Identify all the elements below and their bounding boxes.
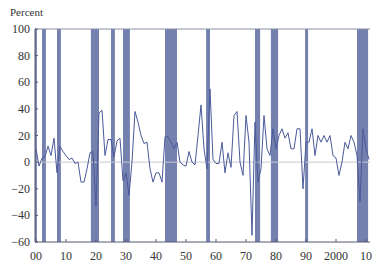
y-tick-label: 0 — [24, 155, 30, 169]
x-tick-label: 70 — [240, 249, 252, 263]
x-tick-label: 40 — [150, 249, 162, 263]
x-axis-ticks: 00102030405060708090200010 — [30, 239, 372, 263]
recession-bar — [165, 29, 177, 242]
y-tick-label: 20 — [18, 129, 30, 143]
recession-bar — [111, 29, 115, 242]
x-tick-label: 90 — [300, 249, 312, 263]
x-tick-label: 80 — [270, 249, 282, 263]
x-tick-label: 10 — [60, 249, 72, 263]
x-tick-label: 2000 — [324, 249, 348, 263]
y-axis-ticks: 100806040200−20−40−60 — [11, 22, 38, 249]
y-tick-label: −60 — [11, 235, 30, 249]
x-tick-label: 50 — [180, 249, 192, 263]
x-tick-label: 30 — [120, 249, 132, 263]
y-tick-label: 100 — [12, 22, 30, 36]
y-tick-label: −20 — [11, 182, 30, 196]
x-tick-label: 60 — [210, 249, 222, 263]
y-tick-label: −40 — [11, 208, 30, 222]
axes — [35, 29, 370, 242]
y-tick-label: 60 — [18, 75, 30, 89]
y-tick-label: 80 — [18, 49, 30, 63]
x-tick-label: 20 — [90, 249, 102, 263]
recession-bar — [42, 29, 46, 242]
x-tick-label: 00 — [30, 249, 42, 263]
recession-bar — [305, 29, 308, 242]
line-chart: 100806040200−20−40−60 001020304050607080… — [0, 0, 376, 270]
recession-bar — [123, 29, 130, 242]
x-tick-label: 10 — [360, 249, 372, 263]
y-tick-label: 40 — [18, 102, 30, 116]
recession-bar — [57, 29, 61, 242]
